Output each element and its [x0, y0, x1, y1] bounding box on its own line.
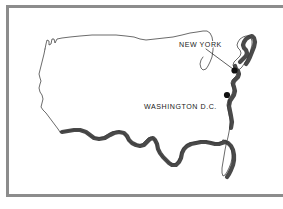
city-label-washington-dc: WASHINGTON D.C. [144, 103, 217, 111]
leader-line-new-york [206, 49, 233, 69]
city-labels: NEW YORK WASHINGTON D.C. [144, 41, 222, 111]
city-marker-washington-dc[interactable] [224, 92, 230, 98]
city-marker-new-york[interactable] [231, 67, 237, 73]
shadow-atlantic-coast [229, 66, 239, 128]
shadow-southern-border [62, 130, 225, 165]
shadow-new-england [240, 36, 255, 64]
map-figure: NEW YORK WASHINGTON D.C. [0, 0, 283, 209]
outline-west-coast [39, 49, 60, 132]
outline-northern-border [45, 31, 213, 70]
shadow-florida [225, 142, 234, 177]
us-map-graphic: NEW YORK WASHINGTON D.C. [0, 0, 283, 209]
city-label-new-york: NEW YORK [179, 41, 222, 49]
